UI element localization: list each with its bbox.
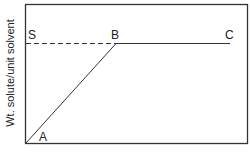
point-label-a: A xyxy=(39,130,47,144)
plot-frame xyxy=(26,5,248,144)
chart-plot: S B C A xyxy=(0,0,250,154)
line-a-b xyxy=(26,44,116,144)
point-label-c: C xyxy=(225,28,234,42)
point-label-s: S xyxy=(28,28,36,42)
point-label-b: B xyxy=(111,28,119,42)
